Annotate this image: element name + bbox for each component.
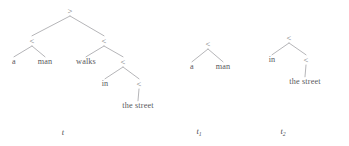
tree-caption-subscript: 1	[199, 131, 202, 137]
tree-leaf-node: man	[216, 63, 231, 71]
tree-edge	[70, 16, 104, 36]
tree-leaf-node: walks	[76, 58, 96, 66]
tree-edge	[86, 46, 104, 57]
tree-leaf-node: in	[269, 56, 276, 64]
tree-edge	[32, 16, 70, 36]
tree-edge	[192, 49, 208, 62]
tree-caption-t1: t1	[196, 128, 201, 138]
tree-edge	[123, 67, 139, 79]
tree-caption-base: t	[62, 128, 64, 137]
tree-edge	[14, 46, 32, 57]
tree-caption-t: t	[62, 129, 64, 137]
tree-leaf-node: the street	[289, 78, 320, 86]
tree-operator-node: <	[206, 40, 211, 49]
tree-edges-layer	[0, 0, 349, 146]
tree-leaf-node: man	[38, 58, 53, 66]
tree-operator-node: <	[137, 80, 142, 89]
tree-caption-t2: t2	[280, 128, 285, 138]
tree-leaf-node: in	[102, 80, 109, 88]
tree-edge	[138, 89, 139, 101]
tree-edge	[305, 65, 306, 77]
tree-leaf-node: a	[190, 63, 194, 71]
tree-leaf-node: the street	[122, 102, 153, 110]
tree-operator-node: >	[68, 7, 73, 16]
tree-edge	[272, 43, 289, 55]
tree-edge	[32, 46, 45, 57]
tree-edge	[104, 46, 123, 57]
tree-operator-node: <	[287, 34, 292, 43]
tree-edge	[289, 43, 306, 55]
derivation-figure: ><<amanwalks<in<the street<aman<in<the s…	[0, 0, 349, 146]
tree-edge	[208, 49, 223, 62]
tree-operator-node: <	[121, 58, 126, 67]
tree-operator-node: <	[304, 56, 309, 65]
tree-leaf-node: a	[12, 58, 16, 66]
tree-caption-subscript: 2	[283, 131, 286, 137]
tree-operator-node: <	[30, 37, 35, 46]
tree-edge	[105, 67, 123, 79]
tree-operator-node: <	[102, 37, 107, 46]
